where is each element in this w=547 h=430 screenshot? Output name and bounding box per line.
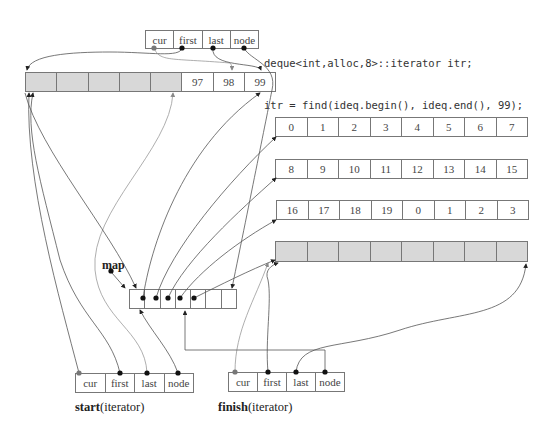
- pointer-arrows: [0, 0, 547, 430]
